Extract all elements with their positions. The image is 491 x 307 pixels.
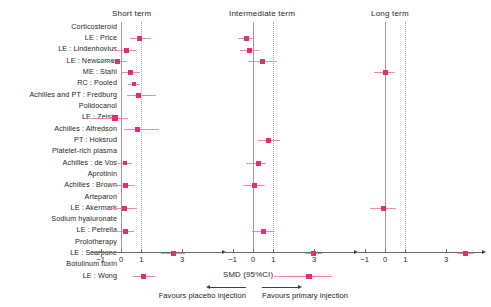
favours-primary-arrow [262,287,298,288]
effect-estimate-marker [463,251,468,256]
favours-placebo-arrow [210,287,246,288]
favours-primary-label: Favours primary injection [262,291,348,300]
x-axis-tick-label: 1 [403,255,407,264]
x-axis-tick [365,249,366,252]
effect-estimate-marker [381,206,386,211]
x-axis-tick-label: 3 [444,255,448,264]
panel-long-term-title: Long term [371,9,409,18]
smd-axis-caption: SMD (95%CI) [223,270,273,279]
x-axis-tick-label: −1 [360,255,369,264]
favours-placebo-label: Favours placebo injection [159,291,246,300]
favours-primary-arrow-head [298,285,302,289]
x-axis-tick [446,249,447,252]
x-axis-tick [385,249,386,252]
x-axis-tick-label: 0 [383,255,387,264]
reference-line-zero [385,22,386,252]
x-axis-tick [405,249,406,252]
x-axis-arrow-head [482,250,486,254]
favours-placebo-arrow-head [206,285,210,289]
panel-long-term: Long term −1013 [0,0,491,307]
effect-estimate-marker [383,70,388,75]
reference-line-one [405,22,407,252]
forest-plot: CorticosteroidLE : PriceLE : Lindenhoviu… [0,0,491,307]
